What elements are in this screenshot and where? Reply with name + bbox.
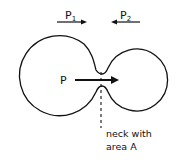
p1-arrow-head	[81, 20, 87, 25]
center-arrow-head	[111, 76, 119, 84]
bubble-neck-diagram: P1 P2 P neck with area A	[0, 0, 176, 160]
center-pressure-label: P	[60, 74, 67, 87]
p2-label: P2	[120, 9, 131, 23]
p2-arrow-head	[111, 20, 117, 25]
neck-label-line2: area A	[106, 141, 137, 152]
p1-label: P1	[65, 9, 76, 23]
neck-label-line1: neck with	[106, 128, 152, 139]
bubble-outline	[20, 36, 168, 116]
